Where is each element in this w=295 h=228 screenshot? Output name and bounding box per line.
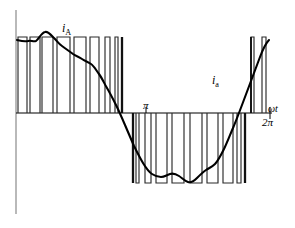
- label-current-ia-upper: iA: [62, 22, 71, 38]
- axis-tick-label-pi: π: [143, 100, 149, 111]
- label-ia-lower-subscript: a: [215, 80, 219, 89]
- axis-label-omega-t: ωt: [268, 104, 278, 114]
- axis-tick-label-2pi: 2π: [262, 117, 273, 128]
- label-current-ia-lower: ia: [212, 74, 219, 90]
- label-ia-upper-subscript: A: [65, 28, 71, 37]
- pwm-current-waveform-figure: iA ia π ωt 2π: [0, 0, 295, 228]
- pulse-train-ia-upper: [18, 37, 118, 113]
- waveform-plot: [0, 0, 295, 228]
